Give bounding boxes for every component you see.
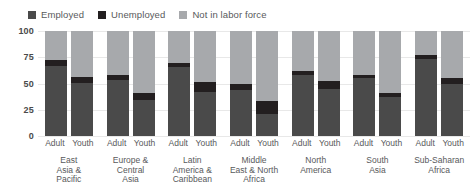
x-subcategory-pair: AdultYouth bbox=[161, 138, 223, 149]
x-subcategory-label: Adult bbox=[166, 138, 190, 149]
bar-segment bbox=[133, 100, 155, 136]
x-category-label: Latin America & Caribbean bbox=[173, 156, 212, 185]
bar-segment bbox=[415, 31, 437, 55]
bar-segment bbox=[71, 31, 93, 77]
x-subcategory-label: Youth bbox=[256, 138, 280, 149]
x-group-labels: AdultYouthNorth America bbox=[285, 138, 347, 192]
bar-segment bbox=[256, 101, 278, 114]
bar-segment bbox=[45, 31, 67, 60]
bar-segment bbox=[107, 80, 129, 136]
bar-segment bbox=[230, 90, 252, 136]
x-group-labels: AdultYouthLatin America & Caribbean bbox=[161, 138, 223, 192]
stacked-bar[interactable] bbox=[292, 31, 314, 136]
bar-group bbox=[38, 31, 100, 136]
legend-swatch-icon bbox=[98, 11, 106, 19]
stacked-bar[interactable] bbox=[168, 31, 190, 136]
legend-item[interactable]: Employed bbox=[28, 10, 84, 20]
stacked-bar[interactable] bbox=[256, 31, 278, 136]
x-subcategory-pair: AdultYouth bbox=[223, 138, 285, 149]
x-subcategory-label: Adult bbox=[290, 138, 314, 149]
bar-segment bbox=[168, 31, 190, 63]
bar-group bbox=[223, 31, 285, 136]
x-subcategory-label: Adult bbox=[351, 138, 375, 149]
legend-label: Employed bbox=[41, 10, 84, 20]
x-subcategory-label: Adult bbox=[43, 138, 67, 149]
bar-segment bbox=[379, 31, 401, 93]
x-category-label: South Asia bbox=[366, 156, 388, 175]
x-subcategory-pair: AdultYouth bbox=[408, 138, 470, 149]
stacked-bar[interactable] bbox=[133, 31, 155, 136]
x-category-label: North America bbox=[300, 156, 331, 175]
bar-segment bbox=[256, 114, 278, 136]
stacked-bar[interactable] bbox=[194, 31, 216, 136]
legend-item[interactable]: Unemployed bbox=[98, 10, 165, 20]
bar-group bbox=[408, 31, 470, 136]
bar-segment bbox=[379, 97, 401, 136]
bar-segment bbox=[256, 31, 278, 101]
bar-segment bbox=[168, 67, 190, 136]
stacked-bar[interactable] bbox=[45, 31, 67, 136]
legend-swatch-icon bbox=[28, 11, 36, 19]
x-group-labels: AdultYouthEast Asia & Pacific bbox=[38, 138, 100, 192]
bar-segment bbox=[441, 31, 463, 78]
bar-segment bbox=[353, 31, 375, 75]
bar-segment bbox=[71, 83, 93, 136]
x-category-label: Middle East & North Africa bbox=[230, 156, 278, 185]
bar-groups bbox=[38, 31, 470, 136]
bar-segment bbox=[292, 31, 314, 71]
bar-group bbox=[161, 31, 223, 136]
stacked-bar[interactable] bbox=[441, 31, 463, 136]
legend-label: Unemployed bbox=[111, 10, 165, 20]
bar-segment bbox=[230, 31, 252, 84]
bar-group bbox=[100, 31, 162, 136]
stacked-bar[interactable] bbox=[318, 31, 340, 136]
bar-segment bbox=[133, 31, 155, 93]
bar-segment bbox=[107, 31, 129, 75]
x-subcategory-label: Youth bbox=[441, 138, 465, 149]
bar-segment bbox=[194, 31, 216, 82]
stacked-bar[interactable] bbox=[230, 31, 252, 136]
bar-segment bbox=[45, 66, 67, 136]
stacked-bar[interactable] bbox=[415, 31, 437, 136]
bar-segment bbox=[318, 81, 340, 88]
bar-segment bbox=[318, 31, 340, 81]
stacked-bar-chart: EmployedUnemployedNot in labor force 025… bbox=[0, 0, 476, 192]
gridline bbox=[38, 136, 470, 137]
x-subcategory-label: Adult bbox=[105, 138, 129, 149]
bar-segment bbox=[415, 59, 437, 136]
legend-item[interactable]: Not in labor force bbox=[179, 10, 266, 20]
y-axis-tick-label: 25 bbox=[24, 105, 34, 114]
stacked-bar[interactable] bbox=[353, 31, 375, 136]
bar-segment bbox=[194, 92, 216, 136]
x-subcategory-pair: AdultYouth bbox=[38, 138, 100, 149]
y-axis: 0255075100 bbox=[0, 31, 34, 136]
stacked-bar[interactable] bbox=[107, 31, 129, 136]
x-subcategory-label: Youth bbox=[71, 138, 95, 149]
x-subcategory-pair: AdultYouth bbox=[347, 138, 409, 149]
x-group-labels: AdultYouthEurope & Central Asia bbox=[100, 138, 162, 192]
x-group-labels: AdultYouthMiddle East & North Africa bbox=[223, 138, 285, 192]
stacked-bar[interactable] bbox=[379, 31, 401, 136]
legend-label: Not in labor force bbox=[192, 10, 266, 20]
stacked-bar[interactable] bbox=[71, 31, 93, 136]
plot-area bbox=[38, 31, 470, 136]
legend-swatch-icon bbox=[179, 11, 187, 19]
bar-group bbox=[285, 31, 347, 136]
x-subcategory-pair: AdultYouth bbox=[285, 138, 347, 149]
x-axis-labels: AdultYouthEast Asia & PacificAdultYouthE… bbox=[38, 138, 470, 192]
bar-group bbox=[347, 31, 409, 136]
bar-segment bbox=[133, 93, 155, 100]
x-category-label: Europe & Central Asia bbox=[113, 156, 148, 185]
bar-segment bbox=[353, 78, 375, 136]
chart-legend: EmployedUnemployedNot in labor force bbox=[28, 8, 267, 22]
bar-segment bbox=[194, 82, 216, 91]
x-group-labels: AdultYouthSouth Asia bbox=[347, 138, 409, 192]
x-subcategory-label: Youth bbox=[194, 138, 218, 149]
x-subcategory-pair: AdultYouth bbox=[100, 138, 162, 149]
x-subcategory-label: Youth bbox=[318, 138, 342, 149]
y-axis-tick-label: 75 bbox=[24, 53, 34, 62]
bar-segment bbox=[292, 75, 314, 136]
y-axis-tick-label: 50 bbox=[24, 79, 34, 88]
x-category-label: East Asia & Pacific bbox=[56, 156, 81, 185]
y-axis-tick-label: 100 bbox=[18, 27, 34, 36]
